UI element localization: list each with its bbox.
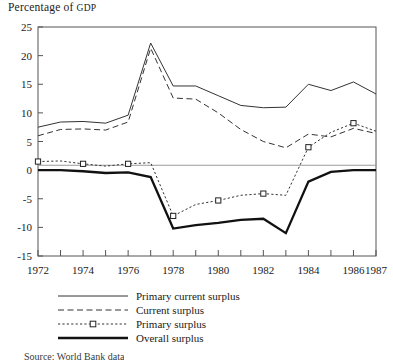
x-tick-label: 1982 xyxy=(252,264,274,276)
y-tick-label: 20 xyxy=(21,50,33,62)
legend-label: Primary current surplus xyxy=(136,290,240,302)
x-tick-label: 1984 xyxy=(297,264,320,276)
y-tick-label: 0 xyxy=(27,164,33,176)
y-tick-label: -15 xyxy=(17,250,32,262)
x-tick-label: 1972 xyxy=(27,264,49,276)
legend-label: Current surplus xyxy=(136,304,204,316)
x-tick-label: 1974 xyxy=(72,264,95,276)
data-point-marker xyxy=(216,198,221,203)
y-tick-label: 5 xyxy=(27,136,33,148)
chart-svg: 2520151050-5-10-15 197219741976197819801… xyxy=(0,0,393,361)
data-point-marker xyxy=(306,145,311,150)
x-tick-label: 1987 xyxy=(365,264,388,276)
data-point-marker xyxy=(35,159,40,164)
series-primary-surplus xyxy=(38,123,376,216)
y-tick-layer: 2520151050-5-10-15 xyxy=(17,21,43,262)
y-tick-label: 15 xyxy=(21,78,33,90)
x-tick-label: 1978 xyxy=(162,264,185,276)
series-overall-surplus xyxy=(38,170,376,233)
x-tick-label: 1986 xyxy=(342,264,365,276)
data-point-marker xyxy=(80,161,85,166)
y-tick-label: 25 xyxy=(21,21,33,33)
legend-label: Overall surplus xyxy=(136,332,204,344)
axes-layer xyxy=(38,27,376,256)
data-point-marker xyxy=(126,161,131,166)
figure-container: Percentage of GDP 2520151050-5-10-15 197… xyxy=(0,0,393,361)
y-tick-label: -10 xyxy=(17,221,32,233)
source-note: Source: World Bank data xyxy=(24,351,124,361)
x-tick-layer: 197219741976197819801982198419861987 xyxy=(27,250,388,276)
series-current-surplus xyxy=(38,48,376,148)
data-point-marker xyxy=(171,213,176,218)
legend-label: Primary surplus xyxy=(136,318,206,330)
x-tick-label: 1976 xyxy=(117,264,140,276)
series-layer xyxy=(35,43,376,233)
y-tick-label: 10 xyxy=(21,107,33,119)
legend-marker-primary-surplus xyxy=(90,321,96,327)
data-point-marker xyxy=(351,121,356,126)
data-point-marker xyxy=(261,191,266,196)
plot-frame xyxy=(38,27,376,256)
series-primary-current-surplus xyxy=(38,43,376,127)
legend-layer: Primary current surplusCurrent surplusPr… xyxy=(58,290,240,344)
x-tick-label: 1980 xyxy=(207,264,230,276)
y-tick-label: -5 xyxy=(23,193,33,205)
